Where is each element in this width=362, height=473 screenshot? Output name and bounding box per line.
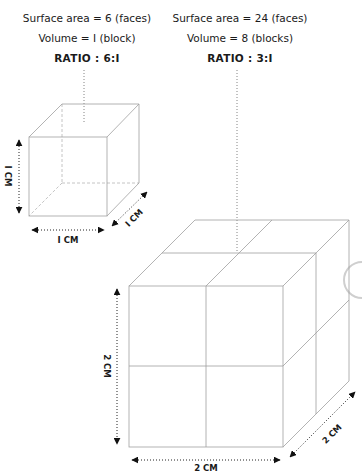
small-width-label: I CM bbox=[58, 235, 79, 245]
large-width-label: 2 CM bbox=[194, 463, 218, 473]
large-height-label: 2 CM bbox=[102, 354, 112, 378]
large-cube bbox=[129, 220, 349, 447]
small-depth-label: I CM bbox=[123, 207, 145, 229]
small-cube bbox=[29, 70, 139, 216]
small-height-label: I CM bbox=[3, 166, 13, 187]
large-dims bbox=[117, 289, 355, 460]
large-depth-label: 2 CM bbox=[320, 422, 344, 446]
edge-circle-fragment bbox=[344, 262, 362, 298]
large-depth-arrow bbox=[290, 392, 355, 457]
cube-diagram: I CM I CM I CM 2 CM 2 CM 2 CM bbox=[0, 0, 362, 473]
